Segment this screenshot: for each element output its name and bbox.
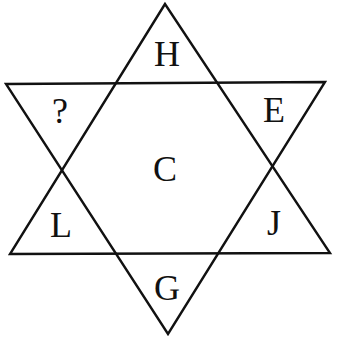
- cell-center-label: C: [153, 149, 177, 189]
- cell-top-label: H: [154, 34, 180, 74]
- cell-bottom-label: G: [154, 268, 180, 308]
- cell-lower-right-label: J: [267, 203, 281, 243]
- cell-upper-right-label: E: [263, 90, 285, 130]
- cell-lower-left-label: L: [50, 205, 72, 245]
- hexagram-puzzle-diagram: H ? E C L J G: [0, 0, 338, 351]
- cell-upper-left-label-unknown: ?: [52, 91, 68, 131]
